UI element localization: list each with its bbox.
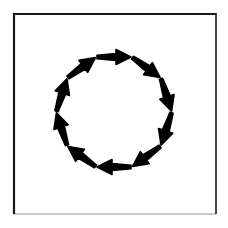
figure-canvas (0, 0, 228, 228)
canvas-background (0, 0, 228, 228)
circular-arrow-diagram (0, 0, 228, 228)
